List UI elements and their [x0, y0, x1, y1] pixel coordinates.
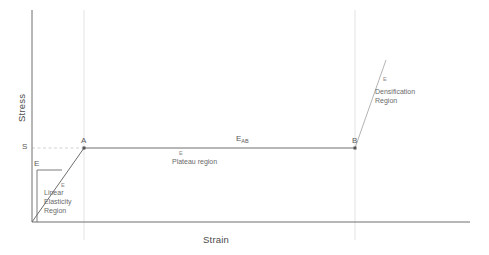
point-marker-b [354, 147, 357, 150]
linear-elasticity-region-mark: E [61, 182, 65, 188]
point-marker-a [83, 147, 86, 150]
densification-region-label-line2: Region [375, 97, 397, 105]
marker-label-e: E [34, 159, 39, 168]
linear-elasticity-region-label-line1: Linear [44, 189, 63, 197]
marker-label-b: B [352, 136, 357, 145]
linear-elasticity-region-label-line3: Region [44, 207, 66, 215]
densification-region-mark: E [383, 76, 387, 82]
marker-label-a: A [81, 136, 86, 145]
linear-elasticity-region-label-line2: Elasticity [44, 198, 72, 206]
plateau-modulus-sub: AB [241, 138, 248, 144]
plateau-modulus-label: EAB [236, 134, 249, 143]
plot-canvas [0, 0, 489, 255]
stress-strain-diagram: Stress Strain S A B E EAB E Linear Elast… [0, 0, 489, 255]
marker-label-s: S [22, 142, 27, 151]
y-axis-title: Stress [16, 94, 27, 122]
densification-region-label-line1: Densification [375, 88, 415, 96]
plateau-region-label: Plateau region [172, 158, 217, 166]
x-axis-title: Strain [203, 234, 229, 245]
plateau-region-mark: E [179, 150, 183, 156]
